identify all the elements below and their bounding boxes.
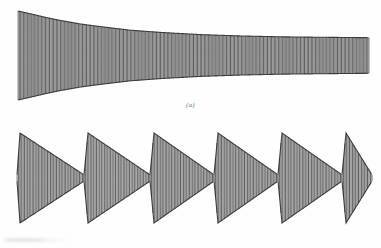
waveform-panel-b: (b) (0, 124, 381, 248)
waveform-trace-b (0, 124, 381, 248)
waveform-panel-a: (a) (0, 0, 381, 124)
figure-page: (a) (b) (0, 0, 381, 248)
panel-caption-a: (a) (0, 101, 381, 109)
